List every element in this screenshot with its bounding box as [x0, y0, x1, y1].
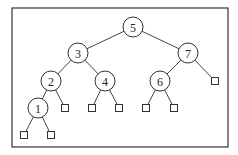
null-leaf-square — [143, 105, 150, 112]
node-label: 3 — [75, 47, 81, 61]
null-leaf-square — [116, 105, 123, 112]
null-leaf-square — [21, 132, 28, 139]
null-leaf-square — [212, 78, 219, 85]
tree-edge — [167, 60, 181, 74]
tree-edge — [165, 90, 173, 105]
tree-node-4: 4 — [95, 71, 115, 91]
node-label: 5 — [130, 21, 136, 35]
node-label: 7 — [185, 47, 191, 61]
tree-edge — [42, 117, 49, 132]
tree-edge — [85, 60, 98, 74]
node-label: 6 — [157, 75, 163, 89]
tree-edge — [142, 31, 179, 48]
tree-edge — [110, 90, 118, 105]
null-leaf-square — [171, 105, 178, 112]
tree-edge — [94, 90, 101, 105]
node-label: 1 — [35, 102, 41, 116]
binary-tree-diagram: 5372461 — [0, 0, 238, 155]
tree-node-2: 2 — [41, 71, 61, 91]
node-label: 2 — [48, 75, 54, 89]
null-leaf-square — [48, 132, 55, 139]
tree-edge — [148, 90, 156, 105]
tree-edge — [26, 117, 34, 132]
tree-node-1: 1 — [28, 98, 48, 118]
tree-node-7: 7 — [178, 43, 198, 63]
tree-nodes: 5372461 — [28, 17, 198, 118]
tree-edge — [195, 60, 213, 78]
tree-node-5: 5 — [123, 17, 143, 37]
tree-edge — [56, 90, 64, 105]
tree-node-6: 6 — [150, 71, 170, 91]
node-label: 4 — [102, 75, 108, 89]
tree-node-3: 3 — [68, 43, 88, 63]
tree-edge — [58, 60, 71, 74]
null-leaf-square — [62, 105, 69, 112]
tree-edge — [42, 90, 46, 99]
tree-edge — [87, 31, 124, 48]
null-leaf-square — [89, 105, 96, 112]
